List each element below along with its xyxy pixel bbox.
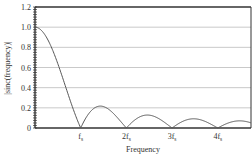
sinc-chart: 00.20.40.60.81.01.2 fs2fs3fs4fs Frequenc… [0, 0, 252, 158]
y-tick-label: 0.6 [21, 64, 31, 73]
y-tick-label: 0.2 [21, 104, 31, 113]
y-tick-label: 0.8 [21, 43, 31, 52]
x-tick-label: 4fs [213, 132, 222, 142]
x-tick-label: fs [78, 132, 83, 142]
x-tick-label: 3fs [168, 132, 177, 142]
y-tick-label: 1.0 [21, 23, 31, 32]
x-axis-label: Frequency [126, 145, 160, 154]
y-tick-label: 0.4 [21, 84, 31, 93]
x-axis-ticks: fs2fs3fs4fs [78, 132, 222, 142]
y-tick-label: 1.2 [21, 3, 31, 12]
y-tick-label: 0 [27, 124, 31, 133]
y-axis-label: |sinc(frequency)| [3, 41, 12, 94]
x-tick-label: 2fs [122, 132, 131, 142]
sinc-curve [35, 27, 251, 128]
grid-lines [35, 27, 251, 108]
